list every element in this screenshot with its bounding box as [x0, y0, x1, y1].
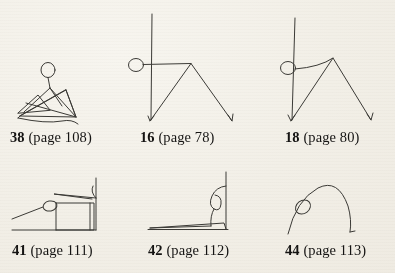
caption-pageref-38: (page 108): [25, 129, 92, 145]
figure-41-body-box: [56, 203, 94, 230]
caption-figure-41: 41 (page 111): [12, 242, 93, 259]
caption-pageref-44: (page 113): [300, 242, 367, 258]
caption-figure-16: 16 (page 78): [140, 129, 214, 146]
caption-pageref-16: (page 78): [155, 129, 215, 145]
figure-38-head-icon: [41, 63, 55, 78]
figure-plate-page: 38 (page 108) 16 (page 78) 18 (page 80) …: [0, 0, 395, 273]
caption-number-41: 41: [12, 242, 27, 258]
figure-42-head-hook: [210, 186, 226, 210]
caption-number-42: 42: [148, 242, 163, 258]
caption-number-16: 16: [140, 129, 155, 145]
caption-figure-42: 42 (page 112): [148, 242, 229, 259]
caption-number-18: 18: [285, 129, 300, 145]
caption-pageref-42: (page 112): [163, 242, 230, 258]
figure-38-drawing: [18, 63, 78, 125]
figure-16-drawing: [129, 14, 234, 121]
figure-42-torso-curve: [211, 209, 214, 226]
figure-44-head-icon: [293, 197, 314, 217]
figure-41-upper-arm: [54, 194, 96, 199]
figure-16-head-icon: [129, 59, 144, 72]
caption-figure-18: 18 (page 80): [285, 129, 359, 146]
figure-41-head-icon: [42, 200, 58, 213]
figure-16-legs: [150, 64, 232, 122]
figure-42-leg-line: [150, 226, 211, 228]
figure-18-legs: [291, 58, 371, 121]
caption-figure-44: 44 (page 113): [285, 242, 366, 259]
figure-16-back-line: [151, 14, 152, 120]
figure-42-drawing: [148, 172, 228, 230]
figure-18-drawing: [281, 18, 374, 121]
caption-pageref-41: (page 111): [27, 242, 93, 258]
figure-44-arch-curve: [288, 185, 351, 234]
figure-18-arm-curve: [295, 58, 333, 69]
caption-number-38: 38: [10, 129, 25, 145]
figure-41-leg-line: [12, 207, 43, 219]
caption-figure-38: 38 (page 108): [10, 129, 92, 146]
caption-pageref-18: (page 80): [300, 129, 360, 145]
figure-44-drawing: [288, 185, 355, 234]
figure-41-drawing: [12, 178, 96, 230]
figure-16-arm-line: [143, 64, 191, 65]
figure-18-head-icon: [281, 62, 296, 75]
caption-number-44: 44: [285, 242, 300, 258]
figure-18-back-line: [292, 18, 295, 120]
